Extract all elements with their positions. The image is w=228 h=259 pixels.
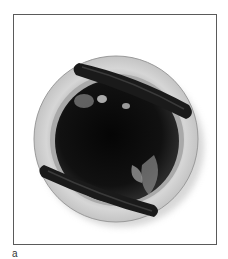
panel-label: a <box>12 249 18 259</box>
valve-photo <box>14 15 216 244</box>
figure-frame <box>13 14 217 245</box>
